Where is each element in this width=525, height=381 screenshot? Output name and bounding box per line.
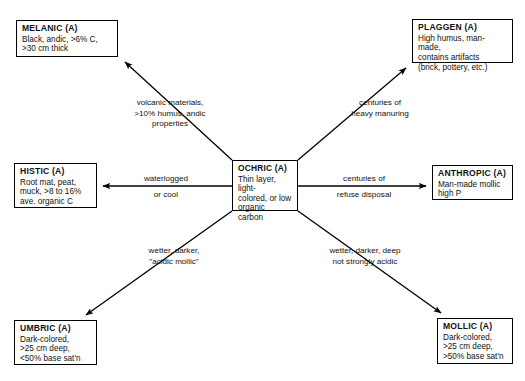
edge-label-ochric-to-melanic: volcanic materials, >10% humus, andic pr… xyxy=(108,98,232,130)
node-melanic-desc: Black, andic, >6% C, >30 cm thick xyxy=(22,35,112,54)
node-ochric-title: OCHRIC (A) xyxy=(238,164,292,174)
edge-label-ochric-to-plaggen: centuries of heavy manuring xyxy=(318,98,442,119)
node-plaggen-desc: High humus, man-made, contains artifacts… xyxy=(418,34,507,72)
node-plaggen[interactable]: PLAGGEN (A) High humus, man-made, contai… xyxy=(412,19,513,63)
node-anthropic-desc: Man-made mollic high P xyxy=(438,180,507,199)
node-ochric-desc: Thin layer, light- colored, or low organ… xyxy=(238,175,292,223)
node-histic-desc: Root mat, peat, muck, >8 to 16% ave. org… xyxy=(20,178,91,207)
node-umbric-title: UMBRIC (A) xyxy=(20,324,91,334)
edge-label-ochric-to-umbric: wetter, darker, "acidic mollic" xyxy=(112,246,236,267)
node-mollic-title: MOLLIC (A) xyxy=(443,322,507,332)
node-ochric[interactable]: OCHRIC (A) Thin layer, light- colored, o… xyxy=(232,160,298,211)
node-histic-title: HISTIC (A) xyxy=(20,167,91,177)
node-melanic-title: MELANIC (A) xyxy=(22,24,112,34)
edge-label-ochric-to-histic-below: or cool xyxy=(104,190,228,201)
edge-label-ochric-to-histic-above: waterlogged xyxy=(104,174,228,185)
node-umbric-desc: Dark-colored, >25 cm deep, <50% base sat… xyxy=(20,335,91,364)
edge-label-ochric-to-anthropic-below: refuse disposal xyxy=(302,190,426,201)
node-melanic[interactable]: MELANIC (A) Black, andic, >6% C, >30 cm … xyxy=(16,20,118,57)
node-histic[interactable]: HISTIC (A) Root mat, peat, muck, >8 to 1… xyxy=(14,163,97,208)
edge-label-ochric-to-mollic: wetter, darker, deep not strongly acidic xyxy=(298,246,432,267)
node-umbric[interactable]: UMBRIC (A) Dark-colored, >25 cm deep, <5… xyxy=(14,320,97,365)
node-anthropic-title: ANTHROPIC (A) xyxy=(438,169,507,179)
node-mollic[interactable]: MOLLIC (A) Dark-colored, >25 cm deep, >5… xyxy=(437,318,513,364)
edge-label-ochric-to-anthropic-above: centuries of xyxy=(302,174,426,185)
node-mollic-desc: Dark-colored, >25 cm deep, >50% base sat… xyxy=(443,333,507,362)
node-anthropic[interactable]: ANTHROPIC (A) Man-made mollic high P xyxy=(432,165,513,200)
diagram-canvas: MELANIC (A) Black, andic, >6% C, >30 cm … xyxy=(0,0,525,381)
node-plaggen-title: PLAGGEN (A) xyxy=(418,23,507,33)
